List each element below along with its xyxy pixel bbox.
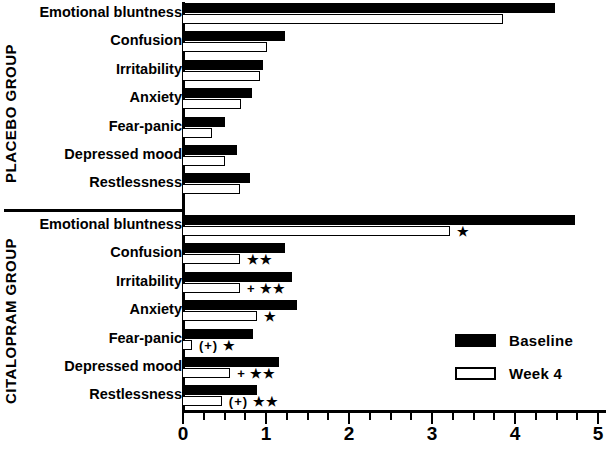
bar-row: ★★ [182,243,606,267]
bar-baseline [182,215,575,225]
bar-baseline [182,145,237,155]
x-tick-minor [473,413,475,420]
group-label-placebo: PLACEBO GROUP [2,18,19,208]
bar-row: ★ [182,300,606,324]
bar-baseline [182,173,250,183]
legend: Baseline Week 4 [455,328,573,394]
bar-week4 [182,14,503,24]
bar-week4 [182,226,450,236]
x-tick-label: 5 [593,424,604,444]
bar-row [182,3,606,27]
legend-item-baseline: Baseline [455,328,573,352]
legend-label-week4: Week 4 [509,365,562,382]
category-label: Fear-panic [109,331,182,346]
x-tick-label: 3 [427,424,438,444]
bar-baseline [182,88,252,98]
significance-marker: + ★★ [237,367,276,380]
bar-row [182,145,606,169]
stacked-bar-chart: PLACEBO GROUP CITALOPRAM GROUP Emotional… [0,0,610,451]
significance-marker: ★★ [247,253,273,266]
category-label: Depressed mood [64,359,182,374]
x-tick-minor [452,413,454,420]
legend-item-week4: Week 4 [455,361,573,385]
bar-week4 [182,128,212,138]
bar-row [182,31,606,55]
x-tick-minor [493,413,495,420]
x-tick-minor [286,413,288,420]
bar-baseline [182,300,297,310]
x-tick-minor [556,413,558,420]
category-label: Confusion [110,245,182,260]
significance-marker: ★ [264,310,277,323]
bar-week4 [182,99,241,109]
significance-marker: + ★★ [247,282,286,295]
bar-baseline [182,3,555,13]
category-label: Emotional bluntness [39,5,182,20]
x-tick-minor [203,413,205,420]
category-label: Emotional bluntness [39,217,182,232]
bar-week4 [182,396,222,406]
x-tick-minor [535,413,537,420]
bar-week4 [182,311,257,321]
category-label: Anxiety [130,302,182,317]
x-tick-minor [244,413,246,420]
category-label: Irritability [116,62,182,77]
x-tick-label: 4 [510,424,521,444]
bar-row [182,88,606,112]
bar-week4 [182,156,225,166]
bar-baseline [182,60,263,70]
legend-swatch-baseline [455,334,496,347]
x-tick-label: 1 [261,424,272,444]
significance-marker: (+) ★ [199,339,236,352]
group-label-citalopram: CITALOPRAM GROUP [2,222,19,420]
bar-week4 [182,42,267,52]
significance-marker: ★ [457,225,470,238]
category-label: Depressed mood [64,147,182,162]
group-divider [4,209,185,212]
bar-baseline [182,117,225,127]
legend-swatch-week4 [455,367,496,380]
bar-week4 [182,340,192,350]
x-tick-minor [410,413,412,420]
bar-row [182,117,606,141]
bar-week4 [182,368,230,378]
x-tick-minor [390,413,392,420]
legend-label-baseline: Baseline [509,332,573,349]
x-tick-minor [369,413,371,420]
bar-baseline [182,31,285,41]
category-label: Confusion [110,33,182,48]
category-label: Irritability [116,274,182,289]
x-tick-minor [224,413,226,420]
bar-week4 [182,184,240,194]
category-label: Fear-panic [109,119,182,134]
category-label: Anxiety [130,90,182,105]
significance-marker: (+) ★★ [229,395,279,408]
bar-row: + ★★ [182,272,606,296]
x-tick-minor [576,413,578,420]
x-tick-minor [327,413,329,420]
bar-row [182,60,606,84]
bar-row: ★ [182,215,606,239]
bar-week4 [182,71,260,81]
bar-row [182,173,606,197]
category-label: Restlessness [89,387,182,402]
category-label: Restlessness [89,175,182,190]
bar-week4 [182,254,240,264]
bar-week4 [182,283,240,293]
x-tick-label: 0 [178,424,189,444]
x-tick-label: 2 [344,424,355,444]
x-tick-minor [307,413,309,420]
